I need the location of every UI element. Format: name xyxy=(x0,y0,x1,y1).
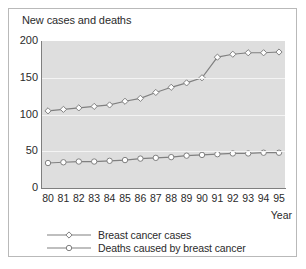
data-point xyxy=(230,51,236,57)
x-tick-label: 95 xyxy=(270,192,288,204)
chart-figure: New cases and deaths 050100150200 808182… xyxy=(0,0,306,269)
data-point xyxy=(184,153,189,158)
x-axis-title: Year xyxy=(271,209,292,221)
data-point xyxy=(153,155,158,160)
data-point xyxy=(169,154,174,159)
y-tick-label: 200 xyxy=(6,35,38,46)
y-axis-tick-labels: 050100150200 xyxy=(4,41,38,188)
y-tick-label: 50 xyxy=(6,145,38,156)
legend-marker-circle-icon xyxy=(46,242,92,254)
gridline-100 xyxy=(42,115,285,116)
data-point xyxy=(184,80,190,86)
data-point xyxy=(138,156,143,161)
gridline-50 xyxy=(42,151,285,152)
data-point xyxy=(76,105,82,111)
x-axis-line xyxy=(41,188,286,189)
data-point xyxy=(199,152,204,157)
series-2 xyxy=(45,150,281,166)
data-point xyxy=(215,151,220,156)
x-axis-tick-labels: 80818283848586878889909192939495 xyxy=(42,192,285,206)
y-tick-label: 0 xyxy=(6,182,38,193)
legend-item[interactable]: Breast cancer cases xyxy=(46,228,276,241)
plot-area xyxy=(42,41,285,188)
legend-marker-diamond-icon xyxy=(46,229,92,241)
gridline-150 xyxy=(42,78,285,79)
data-point xyxy=(261,50,267,56)
data-point xyxy=(45,108,51,114)
data-point xyxy=(153,89,159,95)
data-point xyxy=(91,103,97,109)
legend-item[interactable]: Deaths caused by breast cancer xyxy=(46,241,276,254)
data-point xyxy=(245,50,251,56)
legend-label: Breast cancer cases xyxy=(98,229,191,241)
data-point xyxy=(107,158,112,163)
legend-label: Deaths caused by breast cancer xyxy=(98,242,246,254)
data-point xyxy=(76,159,81,164)
data-point xyxy=(61,160,66,165)
data-point xyxy=(107,102,113,108)
data-point xyxy=(122,98,128,104)
y-tick-label: 100 xyxy=(6,109,38,120)
y-tick-label: 150 xyxy=(6,72,38,83)
data-point xyxy=(92,159,97,164)
data-point xyxy=(137,95,143,101)
series-1 xyxy=(45,49,282,114)
series-line xyxy=(48,52,279,111)
data-point xyxy=(60,106,66,112)
series-line xyxy=(48,153,279,163)
chart-legend: Breast cancer casesDeaths caused by brea… xyxy=(46,228,276,254)
data-point xyxy=(122,157,127,162)
chart-title: New cases and deaths xyxy=(22,14,131,26)
y-axis-line xyxy=(41,41,42,189)
data-point xyxy=(45,160,50,165)
data-point xyxy=(276,49,282,55)
data-point xyxy=(168,84,174,90)
